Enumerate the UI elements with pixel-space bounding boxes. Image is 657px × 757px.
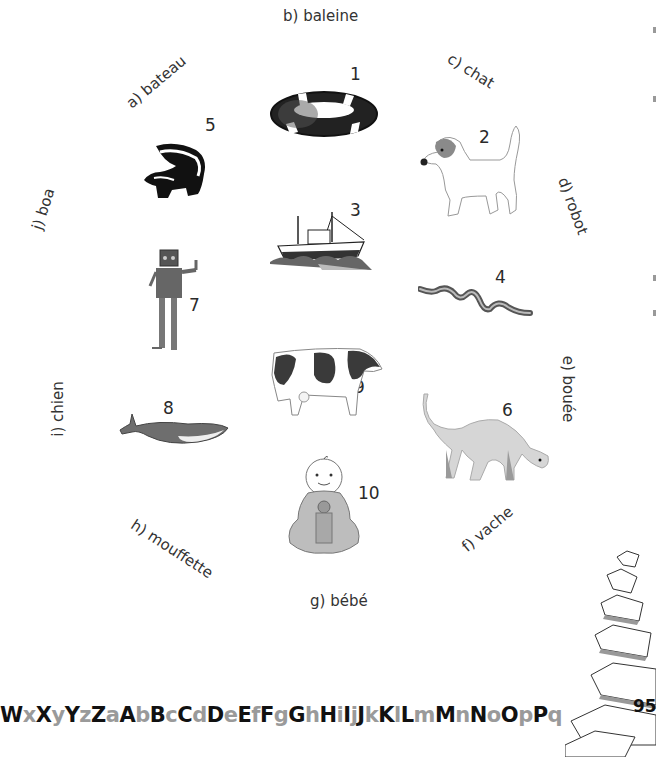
alphabet-letter: y bbox=[51, 703, 64, 727]
alphabet-letter: C bbox=[177, 703, 192, 727]
number-4: 4 bbox=[495, 267, 506, 287]
alphabet-letter: h bbox=[305, 703, 319, 727]
word-i-chien: i) chien bbox=[49, 381, 67, 436]
number-1: 1 bbox=[350, 64, 361, 84]
alphabet-letter: z bbox=[79, 703, 91, 727]
ship-icon bbox=[268, 212, 372, 274]
robot-icon bbox=[144, 248, 204, 354]
alphabet-letter: M bbox=[435, 703, 455, 727]
number-5: 5 bbox=[205, 115, 216, 135]
alphabet-letter: J bbox=[357, 703, 364, 727]
alphabet-letter: K bbox=[378, 703, 394, 727]
alphabet-letter: G bbox=[288, 703, 305, 727]
alphabet-letter: E bbox=[237, 703, 251, 727]
skunk-icon bbox=[142, 140, 212, 202]
alphabet-letter: b bbox=[135, 703, 150, 727]
alphabet-letter: A bbox=[119, 703, 135, 727]
cow-icon bbox=[264, 345, 384, 419]
alphabet-letter: X bbox=[36, 703, 52, 727]
baby-icon bbox=[286, 455, 362, 555]
margin-mark bbox=[653, 310, 656, 316]
alphabet-letter: F bbox=[260, 703, 274, 727]
alphabet-letter: f bbox=[251, 703, 260, 727]
alphabet-letter: q bbox=[548, 703, 563, 727]
alphabet-letter: l bbox=[394, 703, 401, 727]
word-d-robot: d) robot bbox=[554, 175, 591, 237]
word-c-chat: c) chat bbox=[444, 50, 497, 93]
books-stack-icon bbox=[565, 545, 656, 757]
alphabet-letter: x bbox=[23, 703, 36, 727]
lifebuoy-icon bbox=[268, 88, 380, 140]
alphabet-letter: g bbox=[274, 703, 289, 727]
word-f-vache: f) vache bbox=[458, 503, 516, 556]
alphabet-letter: B bbox=[150, 703, 166, 727]
cat-icon bbox=[418, 390, 558, 485]
alphabet-letter: d bbox=[192, 703, 207, 727]
alphabet-strip: WxXyYzZaAbBcCdDeEfFgGhHiIjJkKlLmMnNoOpPq bbox=[0, 703, 562, 727]
word-g-bebe: g) bébé bbox=[310, 592, 368, 610]
alphabet-letter: n bbox=[455, 703, 469, 727]
page-number: 95 bbox=[633, 696, 657, 716]
alphabet-letter: O bbox=[501, 703, 518, 727]
alphabet-letter: W bbox=[0, 703, 23, 727]
whale-icon bbox=[118, 412, 230, 446]
alphabet-letter: Z bbox=[91, 703, 106, 727]
alphabet-letter: I bbox=[343, 703, 350, 727]
alphabet-letter: D bbox=[207, 703, 224, 727]
margin-mark bbox=[653, 27, 656, 33]
alphabet-letter: m bbox=[414, 703, 435, 727]
dog-icon bbox=[418, 124, 526, 222]
margin-mark bbox=[653, 96, 656, 102]
alphabet-letter: k bbox=[365, 703, 378, 727]
alphabet-letter: c bbox=[165, 703, 177, 727]
word-h-mouffette: h) mouffette bbox=[128, 516, 217, 582]
snake-icon bbox=[418, 285, 536, 325]
alphabet-letter: p bbox=[518, 703, 533, 727]
word-b-baleine: b) baleine bbox=[283, 7, 358, 25]
alphabet-letter: e bbox=[224, 703, 238, 727]
alphabet-letter: L bbox=[401, 703, 414, 727]
word-j-boa: j) boa bbox=[28, 186, 58, 232]
margin-mark bbox=[653, 275, 656, 281]
word-a-bateau: a) bateau bbox=[123, 52, 190, 112]
alphabet-letter: N bbox=[470, 703, 487, 727]
alphabet-letter: a bbox=[106, 703, 120, 727]
alphabet-letter: H bbox=[320, 703, 337, 727]
alphabet-letter: P bbox=[533, 703, 548, 727]
alphabet-letter: o bbox=[487, 703, 501, 727]
word-e-bouee: e) bouée bbox=[559, 356, 577, 423]
alphabet-letter: Y bbox=[65, 703, 80, 727]
